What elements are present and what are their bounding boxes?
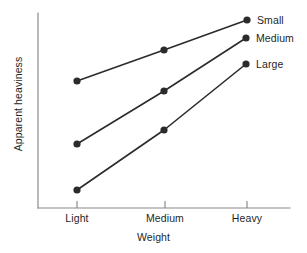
- series-point-small-medium: [160, 46, 167, 53]
- series-point-small-heavy: [243, 16, 250, 23]
- chart-container: Light Medium Heavy Weight Apparent heavi…: [0, 0, 307, 253]
- series-line-large: [77, 64, 246, 190]
- series-point-medium-heavy: [242, 34, 249, 41]
- x-tick-label-medium: Medium: [135, 212, 195, 224]
- series-label-medium: Medium: [256, 32, 294, 44]
- series-point-medium-medium: [160, 87, 167, 94]
- series-point-small-light: [73, 77, 80, 84]
- y-axis-title: Apparent heaviness: [12, 34, 24, 174]
- x-axis-title: Weight: [0, 231, 307, 243]
- x-tick-label-heavy: Heavy: [217, 212, 277, 224]
- series-point-medium-light: [73, 140, 80, 147]
- series-point-large-light: [73, 186, 80, 193]
- series-label-large: Large: [256, 58, 283, 70]
- series-label-small: Small: [257, 14, 284, 26]
- series-point-large-heavy: [242, 60, 249, 67]
- x-tick-label-light: Light: [47, 212, 107, 224]
- series-point-large-medium: [160, 126, 167, 133]
